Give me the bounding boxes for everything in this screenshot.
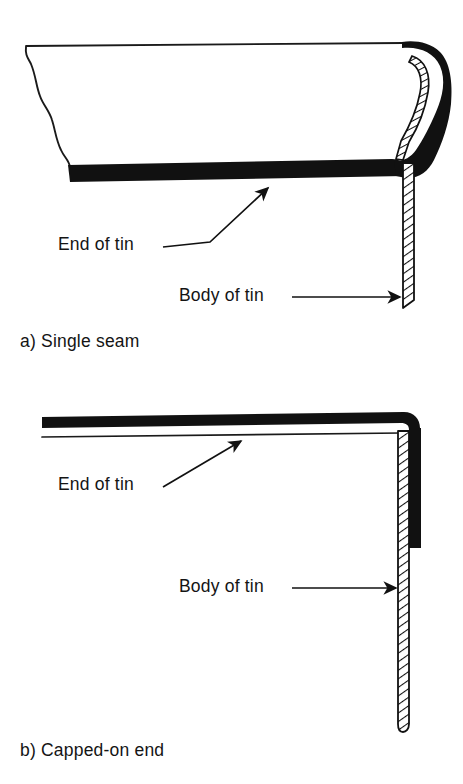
panel-b-caption: b) Capped-on end (20, 740, 164, 761)
panel-b-cap-skirt (409, 428, 421, 548)
panel-b-leader-end-of-tin (163, 441, 241, 487)
panel-b-inner-outline (42, 433, 401, 437)
panel-b-capped-on-end (42, 412, 421, 732)
panel-a-leader-end-of-tin (163, 188, 268, 247)
panel-a-left-wall-profile (26, 47, 70, 167)
panel-b-label-body-of-tin: Body of tin (179, 576, 264, 597)
panel-a-single-seam (26, 41, 452, 308)
panel-a-end-panel (68, 159, 404, 182)
panel-a-end-profile-outline (26, 43, 403, 46)
figure-root: End of tin Body of tin a) Single seam En… (0, 0, 463, 784)
panel-b-label-end-of-tin: End of tin (58, 474, 134, 495)
panel-a-label-end-of-tin: End of tin (58, 234, 134, 255)
panel-b-body-wall (398, 431, 409, 732)
panel-a-caption: a) Single seam (20, 331, 140, 352)
tin-seam-diagram (0, 0, 463, 784)
panel-a-body-wall (403, 163, 414, 308)
panel-a-label-body-of-tin: Body of tin (179, 285, 264, 306)
